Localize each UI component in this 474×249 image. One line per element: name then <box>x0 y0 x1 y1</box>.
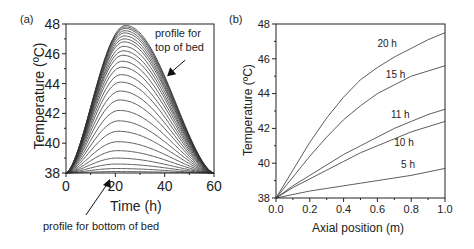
arrow-bottom-of-bed <box>86 183 108 215</box>
plot-frame <box>276 24 445 198</box>
series-label: 20 h <box>377 38 396 49</box>
x-tick-label: 0 <box>62 178 70 194</box>
panel-b-chart: 20 h15 h11 h10 h5 h3840424446480.00.20.4… <box>258 18 453 215</box>
y-tick-label: 44 <box>258 87 270 99</box>
x-tick-label: 0.4 <box>336 203 351 215</box>
figure: 3840424446480204060 20 h15 h11 h10 h5 h3… <box>0 0 474 249</box>
panel-b-xlabel: Axial position (m) <box>312 221 404 235</box>
series-curve-10h <box>276 121 445 198</box>
series-curve-20h <box>276 33 445 198</box>
panel-b-label: (b) <box>229 13 242 25</box>
y-tick-label: 48 <box>258 18 270 30</box>
annotation-top-line2: top of bed <box>155 41 204 53</box>
temperature-profile-curve <box>66 36 214 173</box>
x-tick-label: 1.0 <box>437 203 452 215</box>
x-tick-label: 40 <box>157 178 173 194</box>
series-label: 10 h <box>394 137 413 148</box>
panel-a-xlabel: Time (h) <box>110 198 162 214</box>
x-tick-label: 0.6 <box>370 203 385 215</box>
annotation-top-line1: profile for <box>155 27 201 39</box>
series-label: 5 h <box>401 159 415 170</box>
panel-b-ylabel: Temperature (ºC) <box>241 40 255 180</box>
series-label: 11 h <box>391 109 410 120</box>
series-curve-15h <box>276 66 445 198</box>
y-tick-label: 46 <box>258 53 270 65</box>
y-tick-label: 40 <box>258 157 270 169</box>
x-tick-label: 0.8 <box>404 203 419 215</box>
panel-a-ylabel: Temperature (ºC) <box>31 11 47 181</box>
x-tick-label: 60 <box>206 178 222 194</box>
series-label: 15 h <box>386 69 405 80</box>
annotation-bottom: profile for bottom of bed <box>43 220 159 232</box>
x-tick-label: 0.0 <box>268 203 283 215</box>
x-tick-label: 0.2 <box>302 203 317 215</box>
y-tick-label: 42 <box>258 122 270 134</box>
series-curve-11h <box>276 109 445 198</box>
